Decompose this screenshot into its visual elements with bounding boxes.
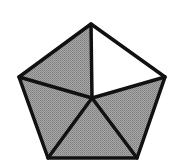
pentagon-figure [0, 0, 183, 163]
spoke-line [91, 24, 92, 98]
pentagon-diagram [0, 0, 183, 163]
